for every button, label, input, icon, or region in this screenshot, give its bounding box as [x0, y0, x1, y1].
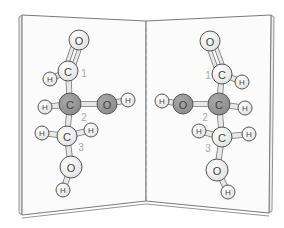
atom-symbol: H	[125, 96, 131, 105]
atom-c: C	[59, 93, 81, 115]
atom-c: C	[212, 127, 232, 147]
atom-o: O	[206, 159, 228, 181]
atom-h: H	[242, 127, 256, 141]
atom-h: H	[38, 100, 52, 114]
atom-h: H	[155, 94, 169, 108]
diagram-canvas: OCHCHOHCHHOH123 OCHCHOHCHHOH123	[0, 0, 284, 228]
atom-symbol: C	[66, 99, 74, 111]
atom-symbol: H	[225, 188, 231, 197]
atom-symbol: O	[213, 165, 222, 177]
atom-symbol: C	[63, 131, 71, 143]
atom-symbol: C	[218, 69, 226, 81]
atom-symbol: H	[242, 104, 248, 113]
atom-o: O	[173, 94, 193, 114]
carbon-number-label: 3	[205, 143, 211, 154]
atom-symbol: H	[42, 103, 48, 112]
atom-symbol: H	[39, 129, 45, 138]
atom-symbol: H	[239, 78, 245, 87]
atom-c: C	[208, 93, 230, 115]
atom-symbol: H	[159, 97, 165, 106]
atom-symbol: O	[103, 99, 112, 111]
atom-h: H	[84, 123, 98, 137]
atom-o: O	[60, 156, 82, 178]
atom-symbol: O	[179, 99, 188, 111]
atom-symbol: H	[60, 186, 66, 195]
carbon-number-label: 3	[78, 142, 84, 153]
atom-c: C	[58, 61, 78, 81]
atom-c: C	[212, 64, 232, 84]
atom-o: O	[200, 31, 220, 51]
atom-c: C	[57, 126, 77, 146]
atom-o: O	[69, 30, 89, 50]
atom-h: H	[121, 93, 135, 107]
atom-symbol: H	[196, 127, 202, 136]
carbon-number-label: 1	[205, 70, 211, 81]
mirror-book-diagram: OCHCHOHCHHOH123 OCHCHOHCHHOH123	[0, 0, 284, 228]
atom-o: O	[97, 94, 117, 114]
atom-h: H	[35, 126, 49, 140]
atom-symbol: H	[47, 75, 53, 84]
atom-h: H	[221, 185, 235, 199]
atom-symbol: C	[215, 99, 223, 111]
atom-symbol: O	[67, 162, 76, 174]
atom-symbol: H	[246, 130, 252, 139]
atom-h: H	[235, 75, 249, 89]
atom-symbol: O	[75, 35, 84, 47]
atom-symbol: O	[206, 36, 215, 48]
atom-symbol: C	[64, 66, 72, 78]
atom-h: H	[43, 72, 57, 86]
carbon-number-label: 2	[81, 112, 87, 123]
carbon-number-label: 1	[81, 68, 87, 79]
atom-symbol: H	[88, 126, 94, 135]
atom-h: H	[238, 101, 252, 115]
carbon-number-label: 2	[202, 112, 208, 123]
atom-h: H	[56, 183, 70, 197]
atom-symbol: C	[218, 132, 226, 144]
atom-h: H	[192, 124, 206, 138]
